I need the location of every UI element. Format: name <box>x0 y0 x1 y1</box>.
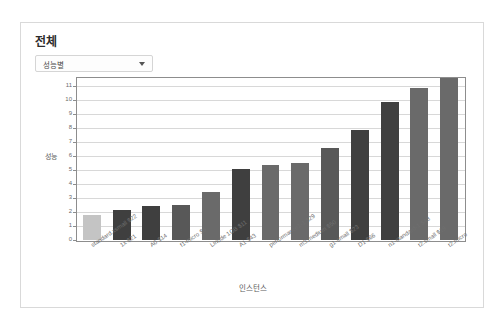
y-axis-tick-label: 4 <box>59 180 72 186</box>
y-axis-title: 성능 <box>45 151 57 161</box>
y-axis-tick-label: 5 <box>59 166 72 172</box>
bar[interactable] <box>351 130 369 240</box>
bar[interactable] <box>381 102 399 240</box>
y-axis-tick-label: 7 <box>59 138 72 144</box>
y-axis-tick-label: 1 <box>59 222 72 228</box>
y-axis-tick-mark <box>73 100 76 101</box>
bar[interactable] <box>440 78 458 240</box>
x-axis-title: 인스턴스 <box>21 282 485 293</box>
y-axis-tick-label: 8 <box>59 124 72 130</box>
y-axis-tick-label: 9 <box>59 110 72 116</box>
y-axis-tick-label: 3 <box>59 194 72 200</box>
y-axis-tick-mark <box>73 142 76 143</box>
bar-chart: 01234567891011 성능 standard.xsmall $221x … <box>21 23 485 309</box>
y-axis-tick-mark <box>73 198 76 199</box>
bar[interactable] <box>262 165 280 240</box>
y-axis-tick-label: 2 <box>59 208 72 214</box>
y-axis-tick-label: 10 <box>59 96 72 102</box>
y-axis-tick-mark <box>73 86 76 87</box>
y-axis-tick-mark <box>73 170 76 171</box>
y-axis-tick-mark <box>73 184 76 185</box>
page-background <box>0 0 501 14</box>
y-axis-tick-label: 0 <box>59 236 72 242</box>
bar[interactable] <box>142 206 160 240</box>
chart-card: 전체 성능별 01234567891011 성능 standard.xsmall… <box>20 22 484 308</box>
y-axis-tick-label: 6 <box>59 152 72 158</box>
x-axis-ticks: standard.xsmall $221x $21A0 $14f1-micro … <box>77 243 464 303</box>
y-axis-tick-label: 11 <box>59 82 72 88</box>
y-axis-tick-mark <box>73 114 76 115</box>
y-axis-tick-mark <box>73 212 76 213</box>
bar[interactable] <box>172 205 190 240</box>
y-axis-tick-mark <box>73 128 76 129</box>
y-axis-tick-mark <box>73 226 76 227</box>
y-axis-tick-mark <box>73 156 76 157</box>
y-axis-tick-mark <box>73 240 76 241</box>
